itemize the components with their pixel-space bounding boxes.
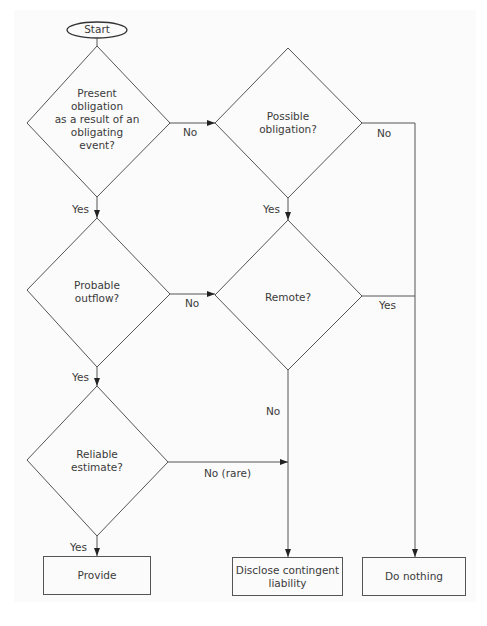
edge-label-possible-yes: Yes <box>263 203 280 215</box>
edge-label-present-yes: Yes <box>72 203 89 215</box>
text-line: obligation <box>42 100 152 113</box>
text-line: outflow? <box>47 292 147 305</box>
decision-reliable-estimate-text: Reliable estimate? <box>47 448 147 474</box>
text-line: as a result of an <box>42 113 152 126</box>
text-line: Disclose contingent <box>236 564 339 577</box>
outcome-provide-label: Provide <box>78 569 117 582</box>
text-line: liability <box>268 577 306 590</box>
text-line: Reliable <box>47 448 147 461</box>
edge-label-remote-no: No <box>266 405 280 417</box>
edge-label-probable-yes: Yes <box>72 371 89 383</box>
edge-label-possible-no: No <box>377 127 391 139</box>
text-line: Possible <box>238 110 338 123</box>
edge-label-reliable-yes: Yes <box>70 541 87 553</box>
text-line: Probable <box>47 279 147 292</box>
edge-label-reliable-no: No (rare) <box>204 467 251 479</box>
text-line: Remote? <box>238 291 338 304</box>
text-line: obligation? <box>238 123 338 136</box>
outcome-disclose-contingent-liability: Disclose contingent liability <box>232 557 343 596</box>
edge-label-probable-no: No <box>185 297 199 309</box>
edge-label-present-no: No <box>183 126 197 138</box>
decision-possible-obligation-text: Possible obligation? <box>238 110 338 136</box>
text-line: estimate? <box>47 461 147 474</box>
text-line: obligating <box>42 126 152 139</box>
text-line: Present <box>42 87 152 100</box>
start-label: Start <box>67 23 127 36</box>
edge-label-remote-yes: Yes <box>379 299 396 311</box>
outcome-do-nothing-label: Do nothing <box>385 570 443 583</box>
outcome-provide: Provide <box>43 556 151 595</box>
text-line: event? <box>42 139 152 152</box>
decision-present-obligation-text: Present obligation as a result of an obl… <box>42 87 152 152</box>
decision-remote-text: Remote? <box>238 291 338 304</box>
outcome-do-nothing: Do nothing <box>362 557 466 596</box>
decision-probable-outflow-text: Probable outflow? <box>47 279 147 305</box>
